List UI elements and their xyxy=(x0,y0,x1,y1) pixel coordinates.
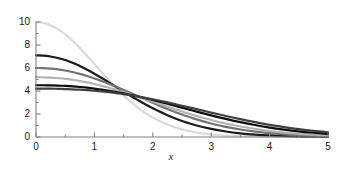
y-tick-label: 10 xyxy=(2,16,30,27)
chart-figure: 0246810 012345 x xyxy=(0,0,342,179)
series-curve-2 xyxy=(36,55,328,136)
y-tick-label: 2 xyxy=(2,108,30,119)
y-tick-label: 6 xyxy=(2,62,30,73)
x-axis-title: x xyxy=(0,150,342,162)
axes-group xyxy=(36,22,328,137)
y-tick-label: 4 xyxy=(2,85,30,96)
y-tick-label: 8 xyxy=(2,39,30,50)
series-curve-1 xyxy=(36,22,328,137)
series-curve-3 xyxy=(36,68,328,136)
curves-group xyxy=(36,22,328,137)
